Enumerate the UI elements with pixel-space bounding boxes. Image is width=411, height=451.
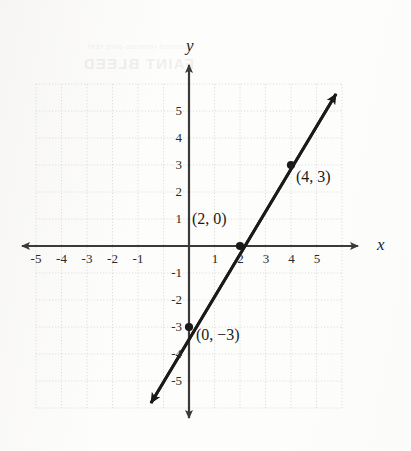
y-tick-label-1: 1: [164, 211, 182, 227]
x-tick-label-1: 1: [205, 251, 225, 267]
graph-page: scanned reverse-side text FAINT BLEED: [0, 0, 411, 451]
data-point-marker: [236, 242, 244, 250]
y-tick-label-2: 2: [164, 184, 182, 200]
x-axis-label: x: [377, 235, 385, 255]
data-point-marker: [185, 323, 193, 331]
y-tick-label--3: -3: [160, 319, 182, 335]
x-tick-label--2: -2: [103, 251, 123, 267]
point-label-2-0: (2, 0): [192, 210, 227, 228]
y-tick-label-3: 3: [164, 157, 182, 173]
x-tick-label-4: 4: [282, 251, 302, 267]
x-tick-label-3: 3: [256, 251, 276, 267]
y-tick-label--4: -4: [160, 346, 182, 362]
x-tick-label--5: -5: [26, 251, 46, 267]
x-tick-label--3: -3: [77, 251, 97, 267]
x-tick-label--4: -4: [52, 251, 72, 267]
y-tick-label-5: 5: [164, 103, 182, 119]
x-tick-label--1: -1: [128, 251, 148, 267]
x-tick-label-5: 5: [307, 251, 327, 267]
y-axis-label: y: [186, 36, 194, 56]
y-tick-label-4: 4: [164, 130, 182, 146]
point-label-0-neg3: (0, −3): [196, 326, 240, 344]
y-tick-label--1: -1: [160, 265, 182, 281]
data-point-marker: [287, 161, 295, 169]
point-label-4-3: (4, 3): [296, 168, 331, 186]
y-tick-label--5: -5: [160, 373, 182, 389]
y-tick-label--2: -2: [160, 292, 182, 308]
x-tick-label-2: 2: [231, 251, 251, 267]
